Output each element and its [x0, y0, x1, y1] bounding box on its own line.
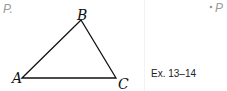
vertex-label-c: C: [118, 77, 129, 91]
vertex-label-a: A: [12, 71, 22, 85]
point-p-dot: [210, 6, 213, 9]
vertex-label-b: B: [77, 8, 87, 22]
exercise-caption: Ex. 13–14: [151, 69, 196, 79]
triangle-shape: [22, 20, 116, 78]
point-p-label-right: P: [215, 2, 223, 14]
